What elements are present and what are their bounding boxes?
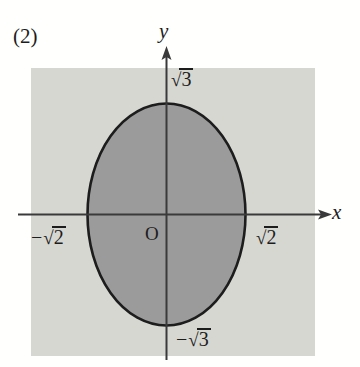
minus-sign-glyph: − — [176, 328, 187, 350]
radicand-value: 3 — [180, 69, 192, 89]
y-intercept-negative-label: −√3 — [176, 329, 210, 349]
radical-group: √3 — [170, 69, 192, 89]
radicand-value: 2 — [53, 227, 65, 247]
figure-container: (2) y x O √3 −√3 √2 −√2 — [0, 0, 360, 367]
item-number-label: (2) — [13, 26, 38, 47]
y-intercept-positive-label: √3 — [170, 69, 192, 89]
y-axis-label: y — [159, 21, 168, 42]
radical-group: √2 — [42, 227, 64, 247]
minus-sign-glyph: − — [31, 226, 42, 248]
radicand-value: 3 — [198, 329, 210, 349]
x-axis-label: x — [332, 202, 341, 223]
radical-group: √3 — [187, 329, 209, 349]
coordinate-plane-figure — [0, 0, 360, 367]
origin-label: O — [145, 224, 159, 243]
radicand-value: 2 — [265, 227, 277, 247]
radical-group: √2 — [255, 227, 277, 247]
x-intercept-positive-label: √2 — [255, 227, 277, 247]
x-intercept-negative-label: −√2 — [31, 227, 65, 247]
